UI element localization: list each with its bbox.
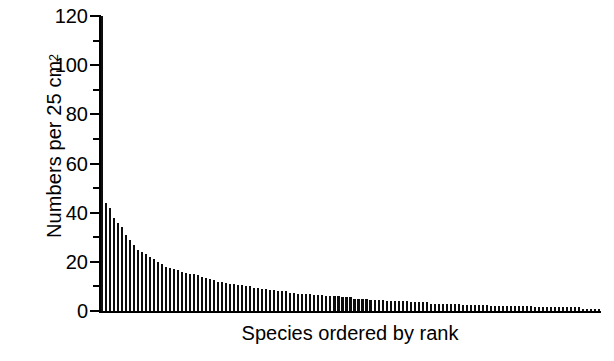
bar (189, 274, 191, 311)
bar (169, 268, 171, 311)
bar (546, 307, 548, 311)
y-tick-label-60: 60 (42, 154, 88, 174)
y-tick-label-20: 20 (42, 252, 88, 272)
bar (129, 240, 131, 311)
bar (117, 223, 119, 312)
y-tick-label-100: 100 (42, 55, 88, 75)
bar (422, 302, 424, 311)
bar (257, 288, 259, 311)
bar (438, 304, 440, 311)
bar (478, 305, 480, 311)
bar (329, 296, 331, 311)
bar (301, 294, 303, 311)
bar (446, 304, 448, 311)
bar (253, 288, 255, 311)
bar (229, 284, 231, 311)
bar (550, 307, 552, 311)
bar (514, 306, 516, 311)
bar (153, 259, 155, 311)
bar (590, 309, 592, 311)
bar (157, 262, 159, 311)
bar (578, 307, 580, 311)
bar (141, 252, 143, 311)
y-axis-tick-labels: 020406080100120 (40, 0, 88, 361)
bar (277, 291, 279, 311)
bar (418, 302, 420, 311)
bar (574, 307, 576, 311)
bar (490, 306, 492, 311)
bar (241, 285, 243, 311)
bar (337, 296, 339, 311)
bar (498, 306, 500, 311)
bar (225, 283, 227, 311)
bar (542, 307, 544, 311)
bar (309, 294, 311, 311)
y-tick-major-20 (90, 261, 99, 263)
bar (474, 305, 476, 311)
plot-area (100, 0, 601, 313)
bar (273, 290, 275, 311)
bar (454, 304, 456, 311)
bar (430, 304, 432, 311)
bar (265, 289, 267, 311)
bar (594, 309, 596, 311)
bar (121, 227, 123, 311)
bar (502, 306, 504, 311)
bar (281, 291, 283, 311)
bar (349, 297, 351, 311)
bar (125, 235, 127, 311)
y-tick-label-80: 80 (42, 104, 88, 124)
bar (598, 309, 600, 311)
bar (510, 306, 512, 311)
bar (177, 270, 179, 311)
bar (317, 295, 319, 311)
bar (361, 299, 363, 311)
y-tick-major-60 (90, 163, 99, 165)
bar (442, 304, 444, 311)
bar (374, 300, 376, 311)
bar (402, 301, 404, 311)
bar (233, 284, 235, 311)
bar (269, 290, 271, 311)
bar (149, 257, 151, 311)
bar (378, 300, 380, 311)
bar (237, 285, 239, 311)
bar (145, 254, 147, 311)
bar (434, 304, 436, 311)
bar (313, 295, 315, 311)
bar (566, 307, 568, 311)
bar (365, 299, 367, 311)
bar (165, 267, 167, 311)
bar (161, 264, 163, 311)
bar (394, 301, 396, 311)
bar (181, 272, 183, 311)
bar (522, 306, 524, 311)
bar (538, 307, 540, 311)
bar (369, 300, 371, 311)
bar (458, 304, 460, 311)
bar (562, 307, 564, 311)
bar (209, 279, 211, 311)
bar (341, 297, 343, 311)
bar (406, 301, 408, 311)
bar (113, 218, 115, 311)
bar (570, 307, 572, 311)
y-tick-major-120 (90, 15, 99, 17)
bar (137, 250, 139, 311)
bar (382, 300, 384, 311)
bar (305, 294, 307, 311)
bar (101, 16, 103, 311)
bar (470, 305, 472, 311)
bar (450, 304, 452, 311)
bar (261, 289, 263, 311)
bar (586, 309, 588, 311)
y-tick-major-0 (90, 310, 99, 312)
bar (205, 278, 207, 311)
bar (466, 305, 468, 311)
bar (185, 273, 187, 311)
bar (173, 269, 175, 311)
bar (197, 275, 199, 311)
bar (105, 203, 107, 311)
y-tick-major-40 (90, 212, 99, 214)
bar (345, 297, 347, 311)
